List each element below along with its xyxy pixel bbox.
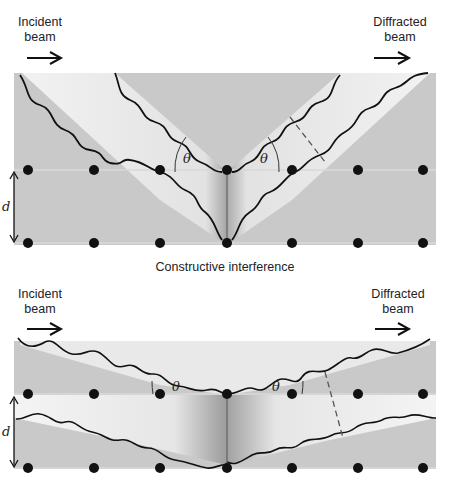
incident-arrow-icon xyxy=(27,323,61,335)
theta-label-right: θ xyxy=(272,379,280,394)
spacing-label: d xyxy=(2,424,10,439)
theta-label-left: θ xyxy=(172,379,180,394)
incident-arrow-icon xyxy=(27,52,61,64)
theta-label-right: θ xyxy=(260,151,268,166)
spacing-label: d xyxy=(2,199,10,214)
diffracted-arrow-icon xyxy=(374,52,409,64)
bottom-panel: θ θ d xyxy=(2,323,436,473)
bragg-diagram: θ θ d xyxy=(0,0,450,488)
top-panel: θ θ d xyxy=(2,52,436,248)
diffracted-arrow-icon xyxy=(375,323,409,335)
theta-label-left: θ xyxy=(183,151,191,166)
